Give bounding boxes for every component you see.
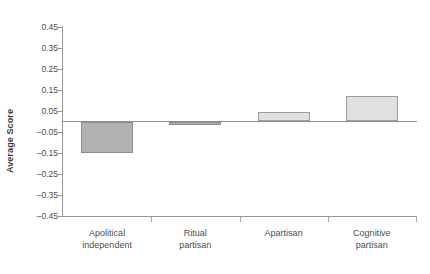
x-axis-category-label-line: partisan — [328, 240, 416, 252]
y-axis-tick-label: 0.15 — [10, 86, 58, 94]
x-axis-category-label: Ritualpartisan — [151, 228, 239, 251]
x-axis-category-label-line: partisan — [151, 240, 239, 252]
x-axis-category-label: Apoliticalindependent — [63, 228, 151, 251]
x-axis-category-label: Apartisan — [240, 228, 328, 240]
x-axis-category-label-line: Apolitical — [63, 228, 151, 240]
x-axis-category-label-line: Apartisan — [240, 228, 328, 240]
x-axis-separator — [240, 217, 241, 222]
y-axis-tick-label: –0.15 — [10, 149, 58, 157]
y-axis-tick-label: –0.25 — [10, 170, 58, 178]
y-axis-tick-mark — [58, 132, 62, 133]
y-axis-tick-label: –0.45 — [10, 212, 58, 220]
bar-chart-figure: Average Score 0.450.350.250.150.05–0.05–… — [0, 0, 430, 274]
y-axis-tick-label: 0.25 — [10, 65, 58, 73]
bar-3 — [258, 112, 310, 121]
x-axis-separator — [416, 217, 417, 222]
bar-2 — [169, 122, 221, 125]
x-axis-separator — [328, 217, 329, 222]
y-axis-title-text: Average Score — [5, 109, 15, 173]
y-axis-tick-mark — [58, 153, 62, 154]
x-axis-category-label-line: Cognitive — [328, 228, 416, 240]
y-axis-tick-label: –0.35 — [10, 191, 58, 199]
y-axis-tick-mark — [58, 216, 62, 217]
y-axis-tick-mark — [58, 27, 62, 28]
y-axis-tick-label: 0.05 — [10, 107, 58, 115]
x-axis-category-label-line: Ritual — [151, 228, 239, 240]
bar-4 — [346, 96, 398, 121]
y-axis-tick-label: 0.45 — [10, 23, 58, 31]
x-axis-separator — [151, 217, 152, 222]
y-axis-tick-mark — [58, 48, 62, 49]
cropped-title-text — [0, 0, 430, 3]
bar-1 — [81, 122, 133, 154]
y-axis-tick-mark — [58, 69, 62, 70]
y-axis-tick-mark — [58, 90, 62, 91]
y-axis-title: Average Score — [2, 86, 18, 196]
y-axis-tick-label: –0.05 — [10, 128, 58, 136]
y-axis-tick-mark — [58, 111, 62, 112]
x-axis-category-label-line: independent — [63, 240, 151, 252]
y-axis-tick-mark — [58, 195, 62, 196]
y-axis-tick-label: 0.35 — [10, 44, 58, 52]
y-axis-tick-mark — [58, 174, 62, 175]
x-axis-category-label: Cognitivepartisan — [328, 228, 416, 251]
